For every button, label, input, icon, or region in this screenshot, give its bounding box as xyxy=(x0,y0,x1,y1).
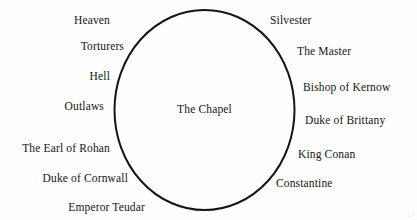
label-torturers: Torturers xyxy=(81,40,124,53)
label-bishop-of-kernow: Bishop of Kernow xyxy=(303,81,390,94)
label-duke-of-cornwall: Duke of Cornwall xyxy=(43,172,128,185)
label-constantine: Constantine xyxy=(276,177,333,190)
label-outlaws: Outlaws xyxy=(65,100,104,113)
label-hell: Hell xyxy=(90,70,110,83)
label-the-earl-of-rohan: The Earl of Rohan xyxy=(22,142,110,155)
label-heaven: Heaven xyxy=(74,14,110,27)
label-duke-of-brittany: Duke of Brittany xyxy=(305,114,385,127)
label-emperor-teudar: Emperor Teudar xyxy=(68,201,145,214)
page-number-artifact: 17 xyxy=(407,211,415,219)
label-king-conan: King Conan xyxy=(298,148,355,161)
label-silvester: Silvester xyxy=(270,14,312,27)
center-label-the-chapel: The Chapel xyxy=(145,103,265,115)
label-the-master: The Master xyxy=(297,45,351,58)
diagram-canvas: The Chapel Heaven Torturers Hell Outlaws… xyxy=(0,0,417,220)
